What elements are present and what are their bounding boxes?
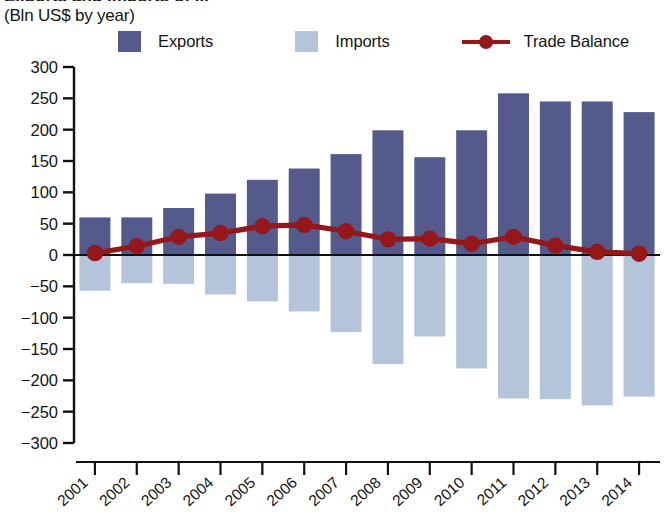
trade-balance-point [463, 236, 479, 252]
chart-subtitle: (Bln US$ by year) [4, 6, 135, 26]
bar-exports [540, 101, 571, 255]
legend-label-trade-balance: Trade Balance [524, 32, 629, 51]
bar-exports [331, 154, 362, 255]
x-axis-tick-label: 2006 [263, 474, 300, 510]
trade-balance-point [505, 229, 521, 245]
y-axis-tick-label: 0 [49, 246, 58, 264]
y-axis-tick-label: −300 [21, 434, 58, 452]
x-axis-tick-label: 2010 [431, 473, 468, 509]
trade-balance-point [547, 237, 563, 253]
bar-imports [414, 255, 445, 336]
x-axis-tick-label: 2004 [180, 473, 217, 509]
bar-imports [289, 255, 320, 311]
trade-balance-point [380, 231, 396, 247]
bar-imports [582, 255, 613, 405]
x-axis-tick-label: 2013 [556, 474, 593, 510]
legend-swatch-imports-icon [295, 31, 318, 52]
bar-imports [624, 255, 655, 397]
y-axis-tick-label: 50 [40, 215, 58, 233]
x-axis-tick-label: 2002 [96, 474, 133, 510]
chart-container: Exports and imports of ... (Bln US$ by y… [0, 0, 667, 515]
trade-balance-point [631, 246, 647, 262]
x-axis-tick-label: 2001 [54, 474, 91, 510]
x-axis-tick-label: 2005 [221, 474, 258, 510]
bar-imports [372, 255, 403, 364]
trade-balance-point [212, 225, 228, 241]
y-axis-tick-label: −150 [21, 340, 58, 358]
trade-balance-point [87, 245, 103, 261]
trade-balance-point [422, 231, 438, 247]
legend-label-imports: Imports [335, 32, 389, 51]
bar-imports [540, 255, 571, 399]
x-axis-tick-label: 2014 [598, 473, 635, 509]
chart-title-cropped: Exports and imports of ... [4, 0, 209, 1]
bar-imports [247, 255, 278, 301]
bar-imports [456, 255, 487, 368]
bar-imports [498, 255, 529, 399]
y-axis-tick-label: 150 [30, 152, 58, 170]
y-axis-tick-label: −200 [21, 371, 58, 389]
trade-balance-point [338, 223, 354, 239]
y-axis-tick-label: −100 [21, 309, 58, 327]
x-axis-tick-label: 2011 [473, 474, 509, 509]
bar-exports [247, 180, 278, 255]
y-axis-tick-label: 200 [30, 121, 58, 139]
chart-plot-area: 300250200150100500−50−100−150−200−250−30… [0, 0, 667, 515]
legend-swatch-exports-icon [118, 31, 141, 52]
bar-exports [624, 112, 655, 255]
bar-imports [205, 255, 236, 294]
bar-exports [582, 101, 613, 255]
y-axis-tick-label: −50 [30, 277, 58, 295]
x-axis-tick-label: 2007 [305, 474, 342, 510]
trade-balance-point [296, 217, 312, 233]
y-axis-tick-label: 250 [30, 89, 58, 107]
legend-item-imports[interactable]: Imports [295, 31, 389, 52]
x-axis-tick-label: 2009 [389, 474, 426, 510]
legend-line-marker-icon [462, 31, 510, 52]
trade-balance-point [254, 218, 270, 234]
trade-balance-point [129, 238, 145, 254]
x-axis-tick-label: 2008 [347, 474, 384, 510]
chart-legend: Exports Imports Trade Balance [118, 28, 663, 54]
y-axis-tick-label: −250 [21, 403, 58, 421]
bar-exports [205, 194, 236, 255]
legend-label-exports: Exports [158, 32, 213, 51]
x-axis-tick-label: 2003 [138, 474, 175, 510]
legend-item-trade-balance[interactable]: Trade Balance [462, 31, 629, 52]
trade-balance-point [589, 244, 605, 260]
bar-exports [289, 169, 320, 255]
y-axis-tick-label: 100 [30, 183, 58, 201]
trade-balance-point [170, 229, 186, 245]
bar-imports [331, 255, 362, 332]
y-axis-tick-label: 300 [30, 58, 58, 76]
legend-item-exports[interactable]: Exports [118, 31, 213, 52]
bar-imports [121, 255, 152, 283]
x-axis-tick-label: 2012 [514, 474, 551, 510]
bar-imports [163, 255, 194, 284]
